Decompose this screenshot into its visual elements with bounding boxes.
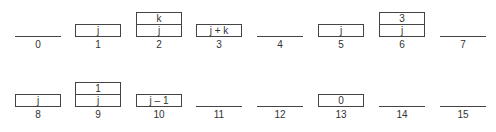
stack: j: [15, 94, 61, 107]
step-index-label: 2: [136, 39, 182, 51]
empty-stack-baseline: [196, 106, 242, 107]
stack-item: k: [136, 12, 182, 24]
stack-item: j + k: [196, 24, 242, 37]
stack-item: j: [75, 24, 121, 37]
stack-item: j – 1: [136, 94, 182, 107]
step-index-label: 12: [257, 109, 303, 121]
stack-cell: j + k3: [196, 1, 242, 51]
stack-item: 3: [379, 12, 425, 24]
stack-cell: 15: [440, 71, 486, 121]
stack-cell: j8: [15, 71, 61, 121]
stack-cell: j5: [318, 1, 364, 51]
step-index-label: 11: [196, 109, 242, 121]
step-index-label: 4: [257, 39, 303, 51]
step-index-label: 3: [196, 39, 242, 51]
step-index-label: 5: [318, 39, 364, 51]
stack-cell: 1j9: [75, 71, 121, 121]
stack-cell: 0: [15, 1, 61, 51]
stack: kj: [136, 12, 182, 37]
empty-stack-baseline: [15, 36, 61, 37]
stack-cell: 7: [440, 1, 486, 51]
stack: j + k: [196, 24, 242, 37]
stack-cell: 11: [196, 71, 242, 121]
step-index-label: 0: [15, 39, 61, 51]
stack-cell: j1: [75, 1, 121, 51]
stack-item: j: [318, 24, 364, 37]
step-index-label: 10: [136, 109, 182, 121]
stack: 0: [318, 94, 364, 107]
stack: j: [75, 24, 121, 37]
stack: 1j: [75, 82, 121, 107]
empty-stack-baseline: [257, 36, 303, 37]
step-index-label: 7: [440, 39, 486, 51]
stack-item: 1: [75, 82, 121, 94]
stack-cell: 3j6: [379, 1, 425, 51]
stack-item: 0: [318, 94, 364, 107]
stack-cell: 12: [257, 71, 303, 121]
empty-stack-baseline: [257, 106, 303, 107]
stack-cell: kj2: [136, 1, 182, 51]
stack-item: j: [136, 24, 182, 37]
step-index-label: 15: [440, 109, 486, 121]
step-index-label: 8: [15, 109, 61, 121]
step-index-label: 9: [75, 109, 121, 121]
stack: j: [318, 24, 364, 37]
stack: j – 1: [136, 94, 182, 107]
stack-cell: 14: [379, 71, 425, 121]
stack-cell: 013: [318, 71, 364, 121]
empty-stack-baseline: [440, 36, 486, 37]
stack-item: j: [379, 24, 425, 37]
step-index-label: 14: [379, 109, 425, 121]
stack-item: j: [75, 94, 121, 107]
stack: 3j: [379, 12, 425, 37]
step-index-label: 13: [318, 109, 364, 121]
empty-stack-baseline: [440, 106, 486, 107]
empty-stack-baseline: [379, 106, 425, 107]
step-index-label: 6: [379, 39, 425, 51]
stack-item: j: [15, 94, 61, 107]
stack-cell: j – 110: [136, 71, 182, 121]
step-index-label: 1: [75, 39, 121, 51]
stack-cell: 4: [257, 1, 303, 51]
